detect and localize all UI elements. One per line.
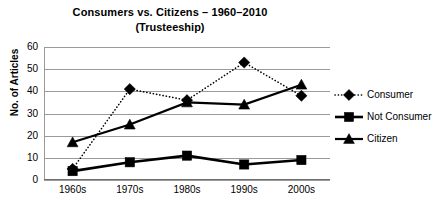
data-point (239, 57, 250, 68)
y-tick-label: 10 (0, 153, 38, 163)
legend-marker-triangle-icon (334, 132, 364, 146)
y-tick-label: 50 (0, 64, 38, 74)
gridline (44, 180, 330, 181)
y-tick-label: 30 (0, 109, 38, 119)
chart-subtitle: (Trusteeship) (0, 21, 340, 34)
data-point (68, 167, 77, 176)
y-tick-label: 40 (0, 86, 38, 96)
legend-item-citizen[interactable]: Citizen (334, 128, 435, 150)
x-tick-label: 1990s (212, 184, 276, 196)
legend-item-not-consumer[interactable]: Not Consumer (334, 106, 435, 128)
data-point (296, 90, 307, 101)
data-point (240, 160, 249, 169)
data-point (124, 84, 135, 95)
data-point (182, 151, 191, 160)
series-citizen (67, 79, 307, 146)
plot-area (44, 47, 330, 180)
legend-item-consumer[interactable]: Consumer (334, 84, 435, 106)
legend-label: Not Consumer (364, 111, 431, 123)
y-tick-label: 0 (0, 175, 38, 185)
x-tick-label: 2000s (269, 184, 333, 196)
legend-label: Consumer (364, 89, 413, 101)
x-tick-label: 1980s (155, 184, 219, 196)
x-tick-label: 1960s (41, 184, 105, 196)
x-tick-label: 1970s (98, 184, 162, 196)
y-axis-tick-labels: 0102030405060 (0, 47, 38, 180)
legend-marker-diamond-icon (334, 88, 364, 102)
y-tick-label: 60 (0, 42, 38, 52)
x-axis-tick-labels: 1960s1970s1980s1990s2000s (44, 184, 330, 200)
data-point (296, 79, 307, 89)
data-point (125, 158, 134, 167)
chart-container: Consumers vs. Citizens – 1960–2010 (Trus… (0, 0, 435, 209)
legend-marker-square-icon (334, 110, 364, 124)
legend-label: Citizen (364, 133, 398, 145)
series-line (73, 85, 302, 143)
series-layer (44, 47, 330, 180)
chart-legend: ConsumerNot ConsumerCitizen (334, 84, 435, 150)
chart-title: Consumers vs. Citizens – 1960–2010 (0, 6, 340, 19)
series-not-consumer (68, 151, 306, 176)
data-point (297, 155, 306, 164)
y-tick-label: 20 (0, 131, 38, 141)
